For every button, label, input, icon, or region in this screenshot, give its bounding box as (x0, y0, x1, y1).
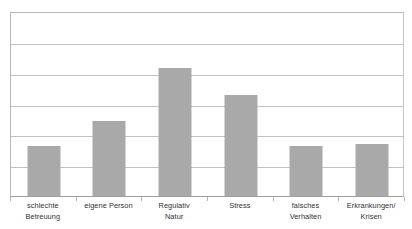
category-label-line2: Krisen (338, 212, 404, 223)
bar-slot (274, 13, 340, 196)
category-label-line1: Erkrankungen/ (338, 201, 404, 212)
category-label-line2: Verhalten (273, 212, 339, 223)
bar-slot (77, 13, 143, 196)
category-label-line1: falsches (273, 201, 339, 212)
category-label-line1: Stress (207, 201, 273, 212)
bar[interactable] (356, 144, 389, 196)
bar[interactable] (290, 146, 323, 196)
category-label: schlechteBetreuung (10, 201, 76, 222)
category-label-line1: Regulativ (141, 201, 207, 212)
bar[interactable] (224, 95, 257, 196)
category-label: RegulativNatur (141, 201, 207, 222)
category-axis-labels: schlechteBetreuungeigene PersonRegulativ… (10, 201, 404, 229)
bars-layer (11, 13, 403, 196)
category-label-line1: schlechte (10, 201, 76, 212)
bar[interactable] (27, 146, 60, 196)
bar-chart-figure: schlechteBetreuungeigene PersonRegulativ… (0, 0, 412, 229)
cropped-title-remnant (0, 0, 412, 7)
category-label-line1: eigene Person (76, 201, 142, 212)
bar-slot (208, 13, 274, 196)
bar[interactable] (159, 68, 192, 196)
category-label-line2: Betreuung (10, 212, 76, 223)
bar[interactable] (93, 121, 126, 196)
axis-tick (404, 197, 405, 201)
category-label: Erkrankungen/Krisen (338, 201, 404, 222)
category-label-line2: Natur (141, 212, 207, 223)
category-label: eigene Person (76, 201, 142, 212)
category-label: Stress (207, 201, 273, 212)
plot-area (10, 12, 404, 197)
bar-slot (339, 13, 405, 196)
bar-slot (11, 13, 77, 196)
bar-slot (142, 13, 208, 196)
category-label: falschesVerhalten (273, 201, 339, 222)
